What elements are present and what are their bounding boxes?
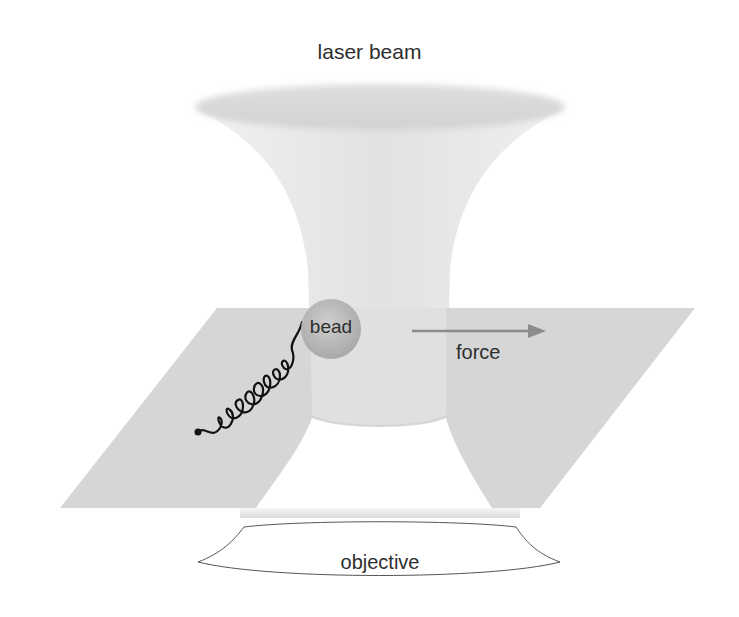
- objective-label: objective: [280, 551, 480, 574]
- tether-anchor: [195, 429, 202, 436]
- laser-beam-label: laser beam: [0, 40, 739, 64]
- bead-label: bead: [301, 316, 361, 338]
- diagram-canvas: [0, 0, 739, 617]
- force-label: force: [456, 341, 500, 364]
- optical-trap-diagram: laser beam bead force objective: [0, 0, 739, 617]
